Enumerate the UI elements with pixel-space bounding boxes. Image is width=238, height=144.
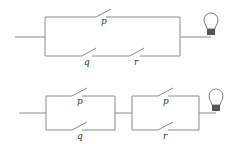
switch-q <box>82 48 96 56</box>
switch-q <box>72 122 87 130</box>
label-p: p <box>163 96 169 106</box>
label-r: r <box>134 57 139 67</box>
label-q: q <box>84 57 90 67</box>
circuits-svg: p q r p q p <box>0 0 238 144</box>
label-q: q <box>77 131 83 141</box>
circuit-2: p q p r <box>19 88 223 141</box>
circuit-diagram: p q r p q p <box>0 0 238 144</box>
label-r: r <box>163 131 168 141</box>
label-p: p <box>101 16 107 26</box>
label-p: p <box>77 96 83 106</box>
light-bulb-icon <box>209 89 223 111</box>
switch-p <box>72 88 87 96</box>
circuit-1: p q r <box>15 9 218 67</box>
switch-r <box>130 48 144 56</box>
switch-p <box>158 88 173 96</box>
light-bulb-icon <box>204 13 218 35</box>
switch-r <box>158 122 173 130</box>
